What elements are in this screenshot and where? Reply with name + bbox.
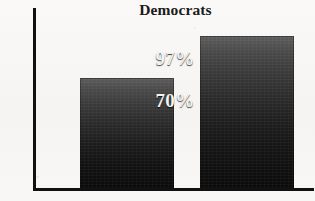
x-axis-line [33, 188, 314, 191]
bar-chart: Democrats % Consistently Liberal 70% 97% [0, 0, 315, 201]
bar-1-value-label: 97% [36, 48, 314, 70]
bar-0-value-label: 70% [36, 90, 314, 112]
plot-area: 70% 97% [36, 8, 314, 188]
